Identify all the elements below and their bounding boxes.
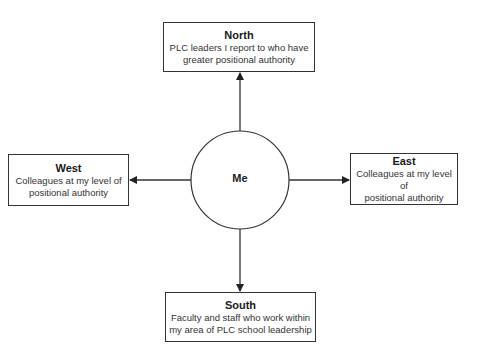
south-description-line-1: Faculty and staff who work within bbox=[166, 312, 315, 324]
south-box: South Faculty and staff who work within … bbox=[165, 292, 316, 342]
north-description-line-1: PLC leaders I report to who have bbox=[164, 42, 314, 54]
west-description-line-2: positional authority bbox=[9, 187, 128, 199]
north-description-line-2: greater positional authority bbox=[164, 54, 314, 66]
north-box: North PLC leaders I report to who have g… bbox=[163, 22, 315, 72]
north-title: North bbox=[164, 29, 314, 42]
south-title: South bbox=[166, 299, 315, 312]
east-description-line-1: Colleagues at my level of bbox=[351, 168, 457, 192]
east-title: East bbox=[351, 155, 457, 168]
east-box: East Colleagues at my level of positiona… bbox=[350, 153, 458, 205]
center-label-me: Me bbox=[190, 172, 290, 184]
west-box: West Colleagues at my level of positiona… bbox=[8, 154, 129, 206]
south-description-line-2: my area of PLC school leadership bbox=[166, 324, 315, 336]
west-description-line-1: Colleagues at my level of bbox=[9, 175, 128, 187]
east-description-line-2: positional authority bbox=[351, 192, 457, 204]
west-title: West bbox=[9, 162, 128, 175]
